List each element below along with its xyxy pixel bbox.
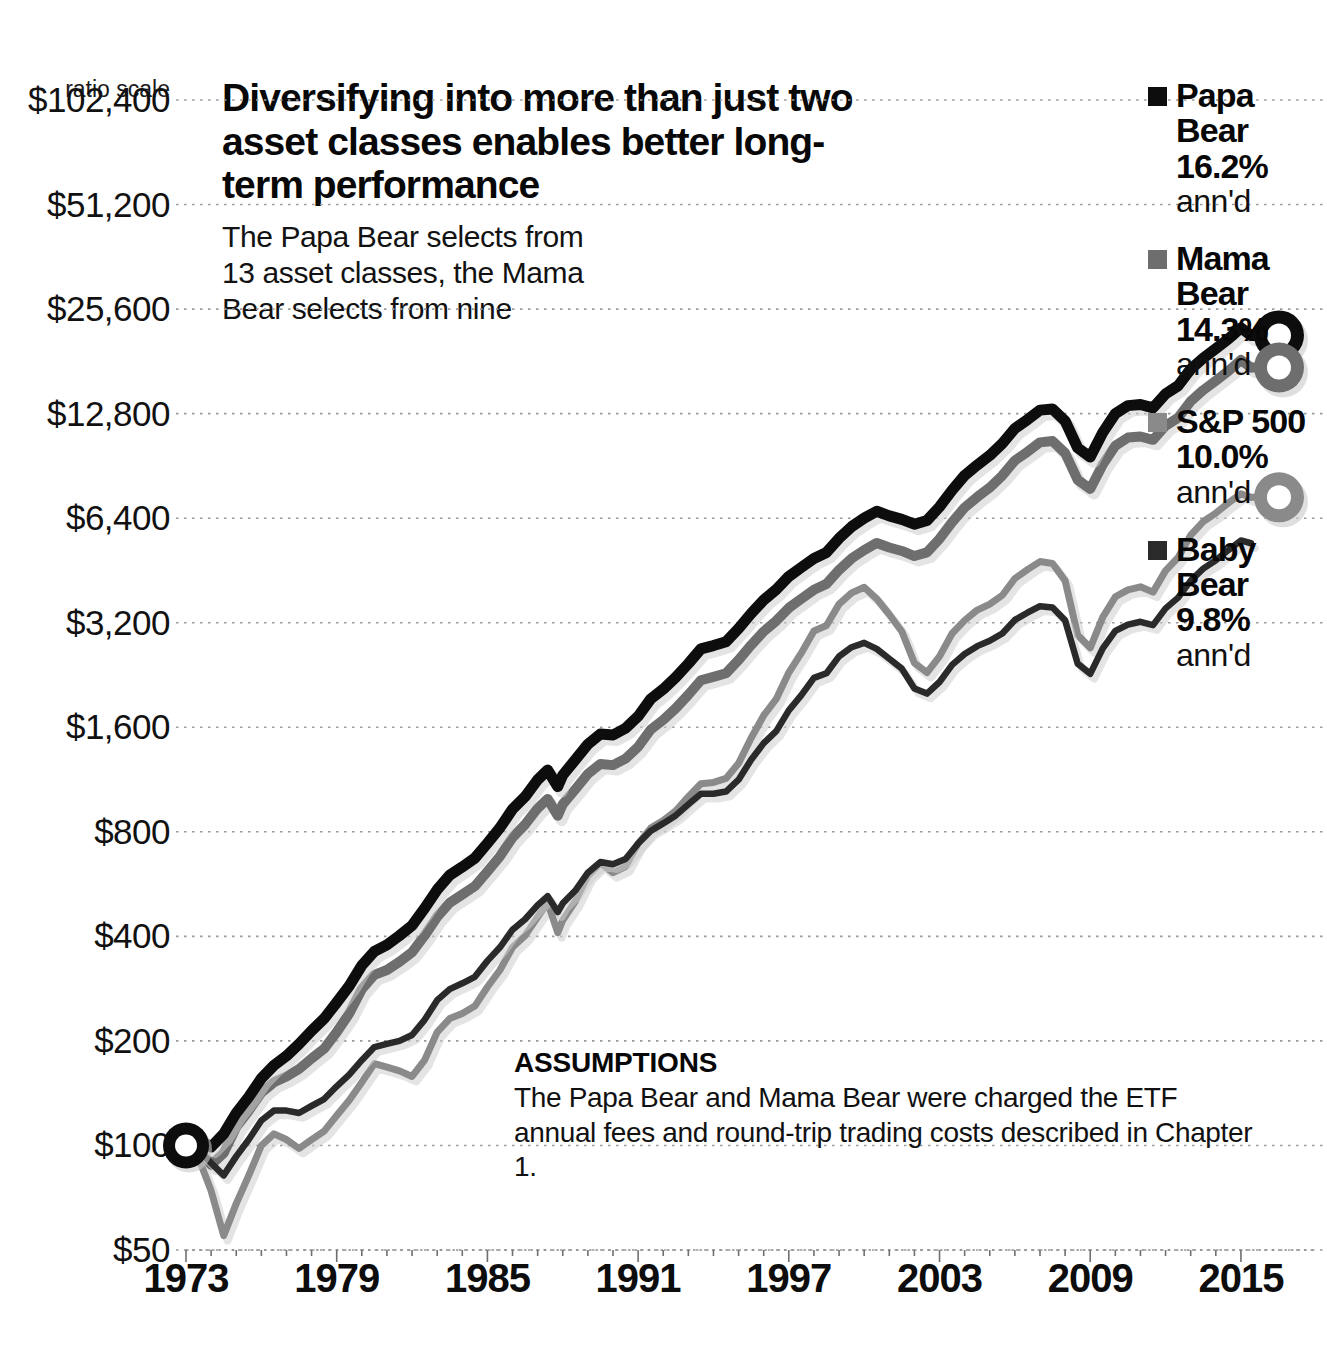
y-tick-label-6400: $6,400 <box>66 498 170 538</box>
legend-return-papa-bear: 16.2% <box>1176 149 1323 185</box>
legend-return-baby-bear: 9.8% <box>1176 602 1323 638</box>
y-tick-label-200: $200 <box>94 1021 170 1061</box>
legend-return-s-p-500: 10.0% <box>1176 439 1323 475</box>
y-tick-label-400: $400 <box>94 916 170 956</box>
x-tick-label-1997: 1997 <box>746 1256 831 1301</box>
legend-label-mama-bear: Mama Bear <box>1176 241 1323 312</box>
y-tick-label-1600: $1,600 <box>66 707 170 747</box>
chart-legend: Papa Bear16.2%ann'dMama Bear14.3%ann'dS&… <box>1148 78 1323 694</box>
y-tick-label-102400: $102,400 <box>28 80 170 120</box>
start-marker-hole <box>175 1134 197 1156</box>
legend-swatch-papa-bear-icon <box>1148 87 1167 106</box>
x-tick-label-2003: 2003 <box>897 1256 982 1301</box>
legend-return-mama-bear: 14.3% <box>1176 312 1323 348</box>
legend-swatch-baby-bear-icon <box>1148 541 1167 560</box>
legend-swatch-mama-bear-icon <box>1148 250 1167 269</box>
legend-annualized-note-s-p-500: ann'd <box>1176 475 1323 510</box>
y-tick-label-800: $800 <box>94 812 170 852</box>
x-tick-label-1973: 1973 <box>144 1256 229 1301</box>
legend-head-baby-bear: Baby Bear <box>1148 532 1323 603</box>
legend-entry-s-p-500[interactable]: S&P 50010.0%ann'd <box>1148 404 1323 510</box>
assumptions-title: ASSUMPTIONS <box>514 1047 1254 1079</box>
legend-head-mama-bear: Mama Bear <box>1148 241 1323 312</box>
legend-entry-baby-bear[interactable]: Baby Bear9.8%ann'd <box>1148 532 1323 673</box>
y-tick-label-51200: $51,200 <box>47 185 170 225</box>
assumptions-body: The Papa Bear and Mama Bear were charged… <box>514 1081 1254 1185</box>
legend-annualized-note-papa-bear: ann'd <box>1176 184 1323 219</box>
legend-label-s-p-500: S&P 500 <box>1176 404 1305 439</box>
legend-entry-papa-bear[interactable]: Papa Bear16.2%ann'd <box>1148 78 1323 219</box>
legend-head-s-p-500: S&P 500 <box>1148 404 1323 439</box>
assumptions-block: ASSUMPTIONS The Papa Bear and Mama Bear … <box>514 1047 1254 1185</box>
x-tick-label-1991: 1991 <box>596 1256 681 1301</box>
series-line-mama-bear <box>186 360 1251 1165</box>
legend-head-papa-bear: Papa Bear <box>1148 78 1323 149</box>
x-tick-label-1979: 1979 <box>294 1256 379 1301</box>
y-tick-label-25600: $25,600 <box>47 289 170 329</box>
x-tick-label-2015: 2015 <box>1198 1256 1283 1301</box>
legend-annualized-note-baby-bear: ann'd <box>1176 638 1323 673</box>
legend-annualized-note-mama-bear: ann'd <box>1176 347 1323 382</box>
chart-figure: Diversifying into more than just two ass… <box>0 0 1327 1365</box>
y-tick-label-3200: $3,200 <box>66 603 170 643</box>
y-tick-label-12800: $12,800 <box>47 394 170 434</box>
legend-label-baby-bear: Baby Bear <box>1176 532 1323 603</box>
x-tick-label-1985: 1985 <box>445 1256 530 1301</box>
legend-label-papa-bear: Papa Bear <box>1176 78 1323 149</box>
legend-entry-mama-bear[interactable]: Mama Bear14.3%ann'd <box>1148 241 1323 382</box>
y-tick-label-100: $100 <box>94 1125 170 1165</box>
x-tick-label-2009: 2009 <box>1048 1256 1133 1301</box>
legend-swatch-sp500-icon <box>1148 413 1167 432</box>
